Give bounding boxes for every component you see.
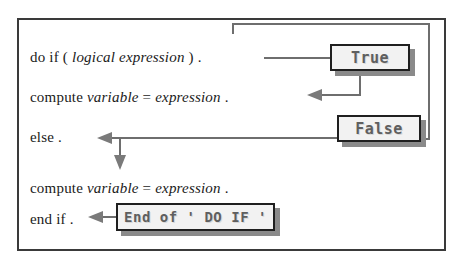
- statement-compute2-part-4: expression: [155, 180, 221, 196]
- statement-compute2-part-5: .: [221, 180, 229, 196]
- statement-compute-false-branch: compute variable = expression .: [30, 180, 229, 197]
- connector-doif-to-true: [264, 57, 332, 59]
- statement-end-if-text: end if .: [30, 211, 74, 227]
- label-box-true-text: True: [351, 49, 389, 67]
- statement-compute-true-branch: compute variable = expression .: [30, 89, 229, 106]
- statement-do-if-part-1: do if (: [30, 49, 72, 65]
- connector-true-to-compute: [322, 94, 361, 96]
- connector-else-down: [119, 137, 121, 157]
- statement-end-if: end if .: [30, 211, 74, 228]
- statement-compute2-part-3: =: [139, 180, 156, 196]
- statement-compute1-part-3: =: [139, 89, 156, 105]
- statement-compute1-part-2: variable: [87, 89, 139, 105]
- arrowhead-else-down-icon: [114, 155, 126, 170]
- statement-compute1-part-1: compute: [30, 89, 87, 105]
- statement-compute2-part-1: compute: [30, 180, 87, 196]
- connector-right-rail: [428, 23, 430, 140]
- label-box-false: False: [337, 115, 421, 142]
- statement-else: else .: [30, 129, 62, 146]
- statement-do-if: do if ( logical expression ) .: [30, 49, 202, 66]
- label-box-false-text: False: [355, 120, 403, 138]
- label-box-end-of-do-if: End of ' DO IF ': [116, 203, 275, 231]
- arrowhead-true-to-compute-icon: [307, 89, 322, 101]
- arrowhead-false-to-else-icon: [97, 132, 112, 144]
- connector-false-to-else: [112, 137, 340, 139]
- arrowhead-endbox-to-endif-icon: [88, 211, 103, 223]
- connector-true-down: [359, 71, 361, 95]
- label-box-true: True: [330, 44, 410, 71]
- diagram-canvas: do if ( logical expression ) . compute v…: [0, 0, 469, 271]
- statement-compute1-part-5: .: [221, 89, 229, 105]
- statement-compute2-part-2: variable: [87, 180, 139, 196]
- statement-do-if-part-2: logical expression: [72, 49, 185, 65]
- statement-do-if-part-3: ) .: [185, 49, 202, 65]
- connector-top-rail: [232, 23, 430, 25]
- statement-compute1-part-4: expression: [155, 89, 221, 105]
- statement-else-text: else .: [30, 129, 62, 145]
- label-box-end-of-do-if-text: End of ' DO IF ': [124, 209, 267, 225]
